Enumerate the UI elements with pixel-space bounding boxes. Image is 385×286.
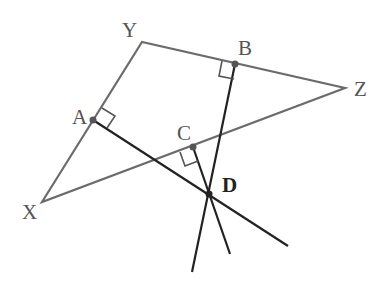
label-a: A (72, 105, 88, 129)
label-x: X (22, 200, 37, 224)
label-y: Y (122, 18, 137, 42)
point-a (90, 117, 97, 124)
perpendicular-line-b (192, 64, 235, 272)
label-c: C (177, 121, 191, 145)
triangle-xyz (42, 42, 345, 202)
label-d: D (222, 173, 237, 197)
point-b (232, 61, 239, 68)
right-angle-mark-a (102, 108, 115, 128)
triangle-perpendicular-bisectors-diagram: Y B Z A C D X (0, 0, 385, 286)
label-z: Z (354, 77, 367, 101)
label-b: B (238, 36, 252, 60)
point-d (206, 191, 213, 198)
